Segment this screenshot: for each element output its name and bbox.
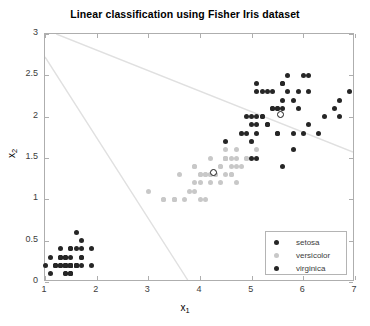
data-point-virginica: [275, 131, 280, 136]
data-point-virginica: [280, 164, 285, 169]
x-tick: [97, 276, 98, 280]
y-tick-label: 3: [8, 27, 38, 37]
data-point-versicolor: [198, 180, 203, 185]
legend[interactable]: setosaversicolorvirginica: [265, 231, 347, 275]
virginica-centroid: [277, 111, 284, 118]
x-tick-label: 4: [184, 284, 214, 294]
data-point-setosa: [48, 271, 53, 276]
y-tick-right: [349, 158, 353, 159]
x-tick-top: [148, 34, 149, 38]
data-point-setosa: [48, 255, 53, 260]
legend-item-setosa[interactable]: setosa: [266, 236, 346, 249]
data-point-setosa: [79, 255, 84, 260]
data-point-versicolor: [223, 156, 228, 161]
data-point-setosa: [43, 263, 48, 268]
data-point-versicolor: [172, 197, 177, 202]
chart-title: Linear classification using Fisher Iris …: [0, 8, 370, 20]
x-tick-label: 6: [287, 284, 317, 294]
data-point-setosa: [53, 263, 58, 268]
y-tick: [45, 34, 49, 35]
data-point-versicolor: [234, 180, 239, 185]
y-tick-right: [349, 75, 353, 76]
legend-label: virginica: [296, 264, 325, 273]
y-tick: [45, 158, 49, 159]
data-point-virginica: [291, 98, 296, 103]
y-tick-right: [349, 117, 353, 118]
x-tick-top: [252, 34, 253, 38]
data-point-versicolor: [234, 147, 239, 152]
legend-item-versicolor[interactable]: versicolor: [266, 249, 346, 262]
data-point-versicolor: [203, 197, 208, 202]
y-tick-right: [349, 34, 353, 35]
legend-label: setosa: [296, 238, 320, 247]
x-tick-label: 3: [132, 284, 162, 294]
data-point-versicolor: [198, 197, 203, 202]
data-point-virginica: [280, 98, 285, 103]
y-tick: [45, 282, 49, 283]
data-point-virginica: [306, 73, 311, 78]
data-point-virginica: [332, 106, 337, 111]
data-point-versicolor: [234, 164, 239, 169]
legend-item-virginica[interactable]: virginica: [266, 262, 346, 275]
data-point-versicolor: [182, 197, 187, 202]
data-point-versicolor: [229, 156, 234, 161]
data-point-versicolor: [229, 164, 234, 169]
x-tick-label: 5: [236, 284, 266, 294]
data-point-virginica: [254, 156, 259, 161]
data-point-setosa: [63, 255, 68, 260]
data-point-setosa: [74, 230, 79, 235]
y-tick: [45, 199, 49, 200]
x-axis-title: x1: [0, 302, 370, 313]
data-point-virginica: [260, 89, 265, 94]
y-tick-label: 2.5: [8, 68, 38, 78]
legend-marker-versicolor: [274, 253, 279, 258]
x-tick-top: [200, 34, 201, 38]
data-point-setosa: [79, 263, 84, 268]
data-point-virginica: [291, 131, 296, 136]
x-tick: [303, 276, 304, 280]
data-point-virginica: [244, 131, 249, 136]
x-tick: [200, 276, 201, 280]
x-tick-label: 2: [81, 284, 111, 294]
data-point-virginica: [260, 114, 265, 119]
y-tick-right: [349, 199, 353, 200]
data-point-versicolor: [229, 172, 234, 177]
y-axis-title-sub: 2: [10, 149, 19, 153]
y-tick-right: [349, 241, 353, 242]
data-point-setosa: [89, 263, 94, 268]
data-point-setosa: [74, 263, 79, 268]
x-tick: [148, 276, 149, 280]
figure: Linear classification using Fisher Iris …: [0, 0, 370, 326]
data-point-virginica: [337, 98, 342, 103]
x-tick-label: 7: [339, 284, 369, 294]
data-point-versicolor: [203, 172, 208, 177]
legend-marker-setosa: [274, 240, 279, 245]
data-point-versicolor: [234, 156, 239, 161]
data-point-virginica: [239, 131, 244, 136]
data-point-versicolor: [239, 164, 244, 169]
data-point-virginica: [296, 106, 301, 111]
versicolor-centroid: [210, 169, 217, 176]
y-tick-label: 0: [8, 275, 38, 285]
y-tick: [45, 117, 49, 118]
y-tick-label: 1: [8, 192, 38, 202]
y-tick-label: 2: [8, 110, 38, 120]
y-tick-right: [349, 282, 353, 283]
data-point-virginica: [322, 114, 327, 119]
legend-label: versicolor: [296, 251, 330, 260]
x-tick: [252, 276, 253, 280]
data-point-versicolor: [218, 164, 223, 169]
data-point-versicolor: [177, 172, 182, 177]
y-axis-title-base: x: [6, 153, 17, 158]
data-point-versicolor: [192, 189, 197, 194]
x-tick-top: [355, 34, 356, 38]
x-tick-top: [97, 34, 98, 38]
data-point-versicolor: [198, 172, 203, 177]
x-axis-title-sub: 1: [185, 306, 189, 315]
data-point-virginica: [291, 147, 296, 152]
x-tick-top: [303, 34, 304, 38]
y-tick-label: 0.5: [8, 234, 38, 244]
data-point-versicolor: [208, 156, 213, 161]
legend-marker-virginica: [274, 266, 279, 271]
y-tick: [45, 75, 49, 76]
